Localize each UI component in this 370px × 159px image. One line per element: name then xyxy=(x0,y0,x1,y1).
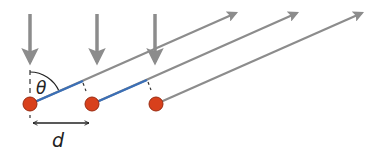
angle-label: θ xyxy=(36,78,47,98)
atom-2 xyxy=(85,97,99,111)
path-difference-2 xyxy=(92,80,147,104)
perpendicular-tick-2 xyxy=(148,82,151,90)
atom-1 xyxy=(23,97,37,111)
atom-3 xyxy=(149,97,163,111)
perpendicular-tick-1 xyxy=(83,83,86,91)
diffracted-rays xyxy=(30,13,362,104)
diffracted-ray-3 xyxy=(156,13,362,104)
diffraction-diagram: θ d xyxy=(0,0,370,159)
incident-arrows xyxy=(30,14,155,62)
spacing-label: d xyxy=(52,129,65,151)
